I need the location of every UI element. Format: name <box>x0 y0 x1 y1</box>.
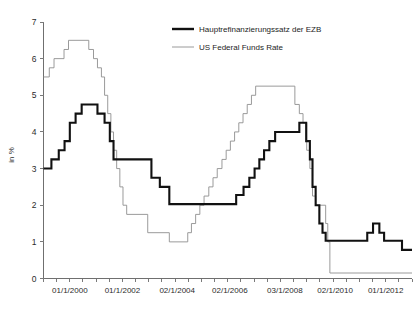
x-tick-label-6: 01/1/2012 <box>368 286 404 295</box>
x-tick-label-2: 02/1/2004 <box>159 286 195 295</box>
x-axis-tick-labels: 01/1/200001/1/200202/1/200402/1/200603/1… <box>52 286 404 295</box>
y-tick-label-1: 1 <box>32 237 37 247</box>
y-tick-label-3: 3 <box>32 164 37 174</box>
x-tick-label-4: 03/1/2008 <box>267 286 303 295</box>
y-tick-label-5: 5 <box>32 90 37 100</box>
y-tick-label-2: 2 <box>32 200 37 210</box>
chart-plot-area: 01234567 in % 01/1/200001/1/200202/1/200… <box>0 0 419 312</box>
y-tick-label-6: 6 <box>32 54 37 64</box>
y-axis-title: in % <box>7 147 16 163</box>
y-tick-label-4: 4 <box>32 127 37 137</box>
legend-label-ecb: Hauptrefinanzierungssatz der EZB <box>199 25 321 34</box>
y-tick-label-7: 7 <box>32 17 37 27</box>
x-tick-label-1: 01/1/2002 <box>105 286 141 295</box>
chart-container: 01234567 in % 01/1/200001/1/200202/1/200… <box>0 0 419 312</box>
x-tick-label-5: 02/1/2010 <box>317 286 353 295</box>
x-tick-label-0: 01/1/2000 <box>52 286 88 295</box>
x-tick-label-3: 02/1/2006 <box>212 286 248 295</box>
y-tick-label-0: 0 <box>32 274 37 284</box>
legend-label-fed: US Federal Funds Rate <box>199 43 284 52</box>
